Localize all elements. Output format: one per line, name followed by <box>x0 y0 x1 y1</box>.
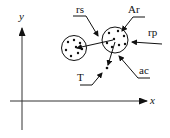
label-ac: ac <box>139 64 149 76</box>
t-vector <box>108 42 115 65</box>
label-t: T <box>77 71 84 83</box>
rs-leader-arrow <box>73 16 98 36</box>
ar-leader-arrow <box>122 17 145 31</box>
target-point <box>106 67 109 70</box>
diagram-canvas: y x rs Ar rp T <box>0 0 170 138</box>
y-axis-label: y <box>18 10 24 22</box>
rp-arrow <box>132 42 162 44</box>
left-particle-cluster <box>62 36 87 61</box>
label-rs: rs <box>76 3 84 15</box>
label-ar: Ar <box>128 3 140 15</box>
label-rp: rp <box>148 26 158 38</box>
right-particle-cluster <box>102 27 128 53</box>
x-axis-label: x <box>149 94 155 106</box>
